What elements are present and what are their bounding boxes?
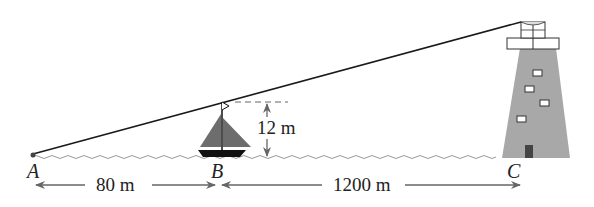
sailboat	[198, 102, 251, 157]
point-a-marker	[31, 153, 36, 158]
mast-height-label: 12 m	[254, 117, 299, 139]
water-line	[32, 156, 496, 159]
point-b-label: B	[211, 160, 223, 183]
point-c-label: C	[507, 160, 520, 183]
ab-distance-label: 80 m	[93, 174, 138, 196]
lighthouse	[502, 22, 570, 158]
bc-distance-label: 1200 m	[330, 174, 394, 196]
point-a-label: A	[27, 160, 39, 183]
diagram-canvas	[0, 0, 594, 207]
